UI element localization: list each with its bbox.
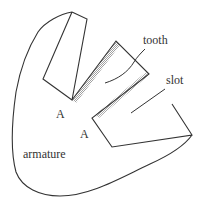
corner-a-upper-label: A [56, 107, 65, 121]
slot-leader-line [131, 89, 165, 113]
corner-a-lower-label: A [80, 127, 89, 141]
slot-label: slot [166, 73, 184, 87]
tooth-label: tooth [143, 33, 168, 47]
armature-label: armature [23, 147, 66, 161]
armature-diagram: tooth slot armature A A [0, 0, 204, 199]
tooth-shading-left [72, 41, 120, 103]
